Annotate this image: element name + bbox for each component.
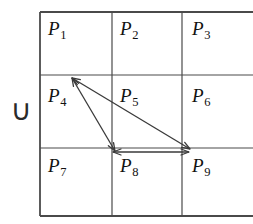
cell-label-p1: P1 — [48, 18, 66, 40]
cell-label-base: P — [192, 85, 204, 106]
cell-label-base: P — [120, 85, 132, 106]
cell-label-p8: P8 — [120, 155, 138, 177]
arrow-p4-p8 — [72, 78, 115, 151]
cell-label-base: P — [192, 18, 204, 39]
cell-label-subscript: 7 — [60, 165, 66, 179]
cell-label-subscript: 5 — [132, 95, 138, 109]
cell-label-subscript: 9 — [204, 165, 210, 179]
cell-label-p6: P6 — [192, 85, 210, 107]
grid-lines — [40, 12, 253, 216]
arrow-p4-p8-shaft — [72, 78, 115, 151]
cell-label-base: P — [48, 85, 60, 106]
cell-label-subscript: 4 — [60, 95, 66, 109]
cell-label-base: P — [120, 18, 132, 39]
cell-label-base: P — [48, 155, 60, 176]
cell-label-p4: P4 — [48, 85, 66, 107]
cell-label-p7: P7 — [48, 155, 66, 177]
cell-label-p5: P5 — [120, 85, 138, 107]
cell-label-p9: P9 — [192, 155, 210, 177]
cell-label-subscript: 6 — [204, 95, 210, 109]
cell-label-p2: P2 — [120, 18, 138, 40]
cell-label-p3: P3 — [192, 18, 210, 40]
cell-label-subscript: 2 — [132, 28, 138, 42]
cell-label-subscript: 1 — [60, 28, 66, 42]
cell-label-base: P — [120, 155, 132, 176]
arrow-p4-p9-head-end — [182, 142, 190, 149]
cell-label-subscript: 8 — [132, 165, 138, 179]
figure-root: ∪ P1P2P3P4P5P6P7P8P9 — [0, 0, 253, 224]
cell-label-subscript: 3 — [204, 28, 210, 42]
cell-label-base: P — [48, 18, 60, 39]
cell-label-base: P — [192, 155, 204, 176]
